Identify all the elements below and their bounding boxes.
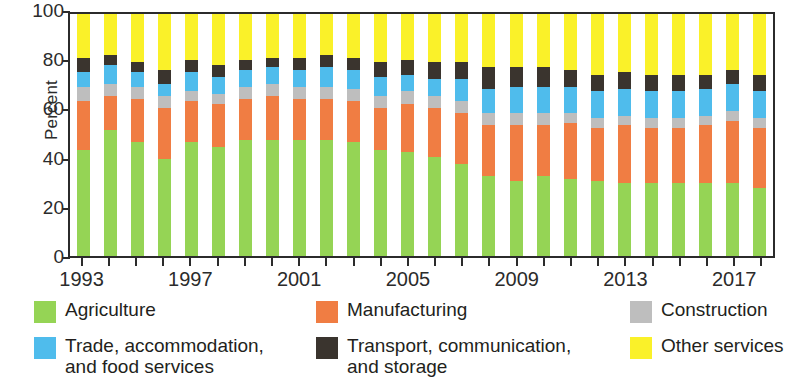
x-tick-mark	[516, 258, 518, 266]
legend-item[interactable]: Other services	[630, 336, 783, 359]
bar-segment	[510, 14, 523, 67]
legend-item[interactable]: Agriculture	[34, 300, 156, 323]
bar-segment	[591, 14, 604, 75]
bar-1999[interactable]	[239, 14, 252, 256]
bar-1994[interactable]	[104, 14, 117, 256]
bar-2005[interactable]	[401, 14, 414, 256]
bar-segment	[104, 14, 117, 55]
bar-2009[interactable]	[510, 14, 523, 256]
x-tick-label: 2017	[712, 268, 757, 291]
bar-2010[interactable]	[537, 14, 550, 256]
x-tick-mark	[461, 258, 463, 266]
bar-segment	[753, 128, 766, 189]
bar-1997[interactable]	[185, 14, 198, 256]
legend-item[interactable]: Transport, communication, and storage	[316, 336, 571, 377]
bar-segment	[591, 75, 604, 92]
bar-2016[interactable]	[699, 14, 712, 256]
bar-segment	[618, 89, 631, 116]
bar-1996[interactable]	[158, 14, 171, 256]
bar-segment	[753, 118, 766, 128]
bar-segment	[699, 89, 712, 116]
bar-1995[interactable]	[131, 14, 144, 256]
x-tick-mark	[760, 258, 762, 266]
bar-2012[interactable]	[591, 14, 604, 256]
bar-segment	[699, 14, 712, 75]
bar-1993[interactable]	[77, 14, 90, 256]
legend-label: Agriculture	[65, 300, 156, 321]
bar-segment	[699, 125, 712, 183]
bar-segment	[510, 181, 523, 256]
x-tick-label: 1993	[59, 268, 104, 291]
x-tick-mark	[733, 258, 735, 266]
bar-segment	[266, 58, 279, 68]
y-tick-label: 100	[4, 1, 64, 20]
bar-segment	[212, 147, 225, 256]
legend-item[interactable]: Construction	[630, 300, 768, 323]
bar-segment	[158, 96, 171, 108]
bar-2014[interactable]	[645, 14, 658, 256]
bar-segment	[77, 58, 90, 73]
bar-segment	[726, 111, 739, 121]
bar-2018[interactable]	[753, 14, 766, 256]
y-tick-label: 80	[4, 50, 64, 69]
bar-2000[interactable]	[266, 14, 279, 256]
bar-2017[interactable]	[726, 14, 739, 256]
x-tick-label: 2005	[386, 268, 431, 291]
bar-2001[interactable]	[293, 14, 306, 256]
bar-segment	[645, 91, 658, 118]
bar-segment	[537, 67, 550, 86]
bar-segment	[77, 14, 90, 58]
bar-segment	[618, 14, 631, 72]
x-tick-mark	[706, 258, 708, 266]
y-tick-label: 40	[4, 149, 64, 168]
bar-2008[interactable]	[482, 14, 495, 256]
y-tick-label: 0	[4, 247, 64, 266]
bar-segment	[239, 70, 252, 87]
bar-segment	[455, 113, 468, 164]
bar-segment	[320, 14, 333, 55]
x-tick-mark	[298, 258, 300, 266]
bar-segment	[591, 181, 604, 256]
bar-segment	[455, 14, 468, 62]
bar-2006[interactable]	[428, 14, 441, 256]
bar-segment	[672, 118, 685, 128]
bar-segment	[347, 142, 360, 256]
bar-segment	[455, 101, 468, 113]
bar-2007[interactable]	[455, 14, 468, 256]
bar-segment	[726, 70, 739, 85]
bar-segment	[212, 94, 225, 104]
x-tick-mark	[624, 258, 626, 266]
bar-segment	[401, 60, 414, 75]
bar-segment	[645, 183, 658, 256]
bar-segment	[726, 121, 739, 184]
bar-segment	[104, 84, 117, 96]
bar-segment	[564, 14, 577, 70]
bar-segment	[428, 62, 441, 79]
bar-segment	[185, 60, 198, 72]
bar-2003[interactable]	[347, 14, 360, 256]
bar-segment	[726, 14, 739, 70]
bar-segment	[699, 75, 712, 90]
bar-segment	[401, 14, 414, 60]
bar-1998[interactable]	[212, 14, 225, 256]
bar-2002[interactable]	[320, 14, 333, 256]
legend-label: Trade, accommodation, and food services	[65, 336, 264, 377]
legend-label: Construction	[661, 300, 768, 321]
bar-2013[interactable]	[618, 14, 631, 256]
legend-label: Manufacturing	[347, 300, 467, 321]
bar-segment	[320, 55, 333, 67]
bar-2015[interactable]	[672, 14, 685, 256]
bar-2011[interactable]	[564, 14, 577, 256]
legend-item[interactable]: Manufacturing	[316, 300, 467, 323]
bar-segment	[158, 14, 171, 70]
bar-segment	[347, 101, 360, 142]
bar-segment	[482, 14, 495, 67]
bar-segment	[753, 14, 766, 75]
bar-2004[interactable]	[374, 14, 387, 256]
legend-item[interactable]: Trade, accommodation, and food services	[34, 336, 264, 377]
bar-segment	[455, 62, 468, 79]
plot-area	[68, 12, 775, 258]
bar-segment	[645, 75, 658, 92]
bar-segment	[482, 113, 495, 125]
bar-segment	[401, 152, 414, 256]
